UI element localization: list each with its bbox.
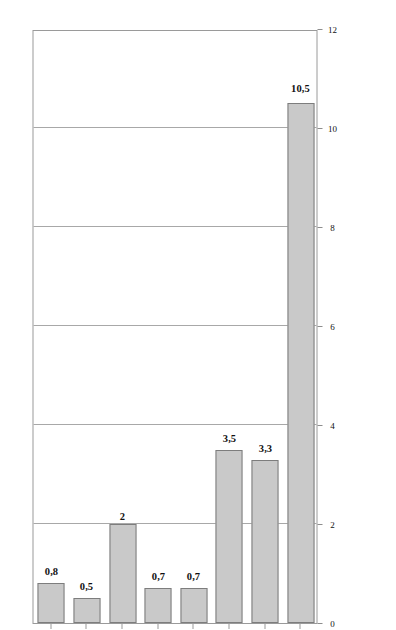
- category-tick-mark: [264, 624, 265, 629]
- category-tick-mark: [300, 624, 301, 629]
- axis-tick-label: 0: [319, 619, 347, 629]
- bar-value-label: 2: [120, 511, 125, 522]
- bar-row: 3,3: [252, 29, 279, 623]
- category-tick-mark: [157, 624, 158, 629]
- bar-value-label: 0,8: [45, 566, 58, 577]
- bar[interactable]: [38, 583, 65, 623]
- bar-row: 3,5: [216, 29, 243, 623]
- bar-row: 0,5: [73, 29, 100, 623]
- bar[interactable]: [287, 103, 314, 623]
- bar-value-label: 0,7: [151, 571, 164, 582]
- bar-value-label: 3,3: [258, 442, 271, 453]
- bar-row: 0,8: [38, 29, 65, 623]
- axis-tick-label: 12: [319, 25, 347, 35]
- axis-tick-label: 6: [319, 322, 347, 332]
- axis-tick-label: 8: [319, 223, 347, 233]
- bar-chart: 10,53,33,50,70,720,50,8 024681012 Welt (…: [0, 0, 396, 630]
- bar-row: 0,7: [145, 29, 172, 623]
- category-tick-mark: [50, 624, 51, 629]
- axis-tick-label: 10: [319, 124, 347, 134]
- bar-row: 2: [109, 29, 136, 623]
- bar[interactable]: [73, 598, 100, 623]
- category-tick-mark: [122, 624, 123, 629]
- bar[interactable]: [216, 450, 243, 623]
- bar-value-label: 0,7: [187, 571, 200, 582]
- axis-tick-label: 2: [319, 520, 347, 530]
- chart-plot-rotation-wrapper: 10,53,33,50,70,720,50,8 024681012 Welt (…: [28, 6, 369, 624]
- bar-value-label: 0,5: [80, 581, 93, 592]
- bar[interactable]: [180, 588, 207, 623]
- bar[interactable]: [252, 460, 279, 623]
- bar-value-label: 3,5: [223, 433, 236, 444]
- plot-area: 10,53,33,50,70,720,50,8: [33, 30, 318, 624]
- category-tick-mark: [193, 624, 194, 629]
- category-tick-mark: [86, 624, 87, 629]
- bar[interactable]: [145, 588, 172, 623]
- bar-value-label: 10,5: [291, 83, 310, 94]
- category-tick-mark: [228, 624, 229, 629]
- bar[interactable]: [109, 524, 136, 623]
- bar-row: 10,5: [287, 29, 314, 623]
- bar-row: 0,7: [180, 29, 207, 623]
- axis-tick-label: 4: [319, 421, 347, 431]
